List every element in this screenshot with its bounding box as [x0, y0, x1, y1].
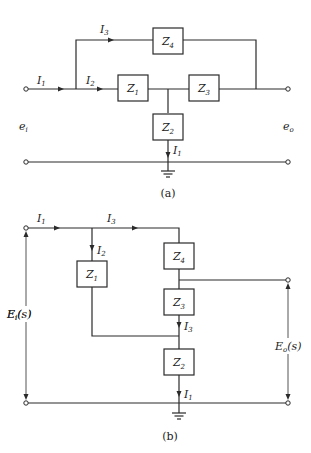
input-terminal-bottom — [24, 401, 28, 405]
current-i3-arrow-icon — [108, 38, 114, 43]
current-i2-label: I2 — [96, 244, 106, 258]
output-voltage-arrow-down-icon — [286, 394, 291, 400]
current-i1-ground-arrow-icon — [166, 152, 171, 158]
current-i1-arrow-icon — [54, 226, 60, 231]
current-i3-mid-arrow-icon — [177, 322, 182, 328]
current-i3-top-label: I3 — [106, 212, 116, 226]
current-i1-label: I1 — [36, 74, 46, 88]
diagram-b: Z1 Z4 Z3 Z2 I1 I3 I2 I3 I1 Ei(s) Ei(s) E… — [6, 212, 304, 443]
ground-icon — [172, 413, 186, 419]
circuit-diagrams: Z4 Z1 Z3 Z2 I1 I2 I3 I1 ei eo (a) — [0, 0, 311, 453]
current-i1-ground-arrow-icon — [177, 391, 182, 397]
ground-icon — [161, 171, 175, 177]
current-i3-mid-label: I3 — [183, 320, 193, 334]
current-i3-top-arrow-icon — [132, 226, 138, 231]
current-i2-arrow-icon — [97, 87, 103, 92]
current-i3-label: I3 — [99, 23, 109, 37]
output-terminal-bottom — [286, 401, 290, 405]
input-terminal-top — [24, 226, 28, 230]
output-voltage-label: eo — [283, 120, 294, 134]
diagram-a: Z4 Z1 Z3 Z2 I1 I2 I3 I1 ei eo (a) — [19, 23, 294, 200]
top-wire — [28, 228, 179, 243]
input-voltage-arrow-up-icon — [24, 231, 29, 237]
input-terminal-bottom — [24, 160, 28, 164]
output-terminal-top — [286, 278, 290, 282]
output-voltage-arrow-up-icon — [286, 283, 291, 289]
input-voltage-label-overlay: Ei(s) — [6, 308, 32, 322]
current-i1-label: I1 — [36, 212, 46, 226]
input-terminal-top — [24, 87, 28, 91]
input-voltage-arrow-down-icon — [24, 394, 29, 400]
caption-b: (b) — [162, 430, 178, 443]
output-terminal-bottom — [286, 160, 290, 164]
output-voltage-label: Eo(s) — [274, 340, 301, 354]
caption-a: (a) — [160, 187, 175, 200]
current-i1-arrow-icon — [58, 87, 64, 92]
output-terminal-top — [286, 87, 290, 91]
current-i2-label: I2 — [85, 74, 95, 88]
current-i1-ground-label: I1 — [183, 388, 193, 402]
input-voltage-label: ei — [19, 120, 28, 134]
current-i2-arrow-icon — [90, 245, 95, 251]
current-i1-ground-label: I1 — [172, 144, 182, 158]
